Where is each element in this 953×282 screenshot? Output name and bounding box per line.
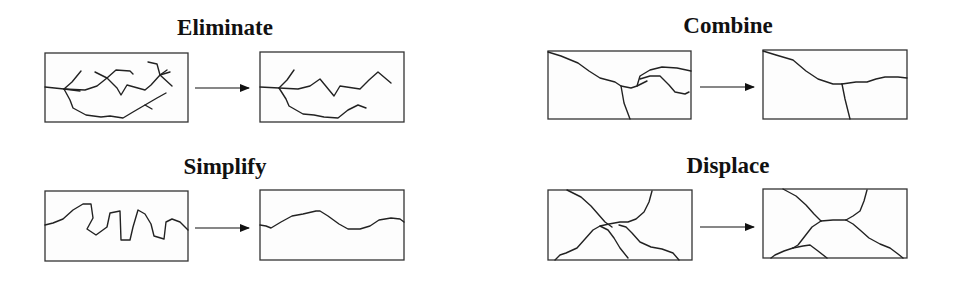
simplify-after	[260, 190, 404, 260]
eliminate-before	[45, 53, 188, 122]
combine-before	[548, 51, 691, 119]
generalization-diagram	[0, 0, 953, 282]
combine-after	[763, 50, 907, 119]
simplify-before	[45, 191, 188, 261]
displace-after	[763, 189, 907, 258]
eliminate-after	[260, 52, 404, 122]
displace-before	[548, 190, 692, 260]
